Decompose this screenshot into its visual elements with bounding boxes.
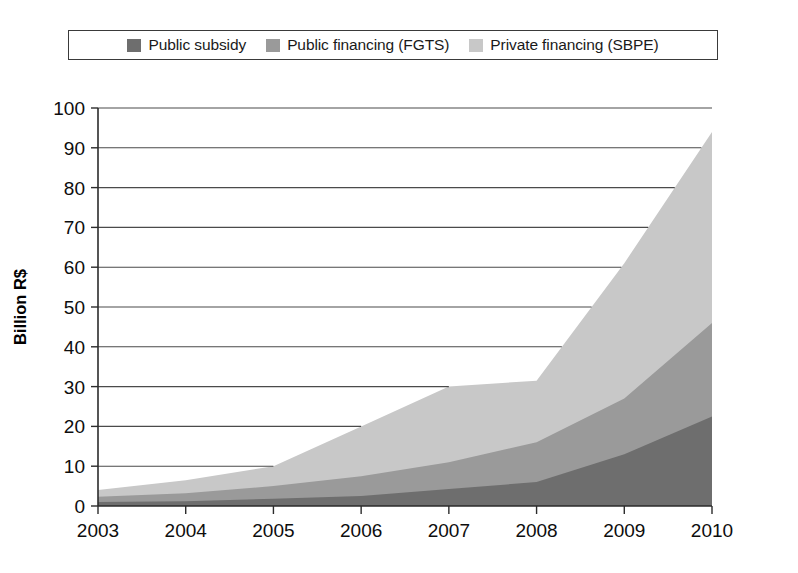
chart-svg: 0102030405060708090100 20032004200520062…	[0, 70, 798, 550]
legend-item-public-subsidy[interactable]: Public subsidy	[127, 37, 246, 53]
chart-figure: Public subsidy Public financing (FGTS) P…	[0, 0, 798, 573]
x-tick-label-2005: 2005	[252, 520, 294, 541]
y-tick-label-100: 100	[53, 98, 85, 119]
x-tick-label-2010: 2010	[691, 520, 733, 541]
y-tick-label-30: 30	[64, 377, 85, 398]
legend-label-public-subsidy: Public subsidy	[148, 37, 246, 53]
x-tick-label-2009: 2009	[603, 520, 645, 541]
y-tick-label-60: 60	[64, 257, 85, 278]
legend-label-public-financing: Public financing (FGTS)	[287, 37, 449, 53]
y-tick-label-40: 40	[64, 337, 85, 358]
y-tick-label-10: 10	[64, 456, 85, 477]
legend-item-public-financing[interactable]: Public financing (FGTS)	[266, 37, 449, 53]
x-tick-label-2007: 2007	[428, 520, 470, 541]
legend-swatch-public-subsidy	[127, 39, 141, 52]
legend-item-private-financing[interactable]: Private financing (SBPE)	[469, 37, 658, 53]
x-tick-label-2008: 2008	[515, 520, 557, 541]
y-axis-title: Billion R$	[11, 269, 29, 345]
x-tick-label-2006: 2006	[340, 520, 382, 541]
chart-plot-area: 0102030405060708090100 20032004200520062…	[0, 70, 798, 550]
x-tick-label-2003: 2003	[77, 520, 119, 541]
y-tick-label-20: 20	[64, 416, 85, 437]
y-axis-ticks: 0102030405060708090100	[53, 98, 98, 517]
legend-swatch-public-financing	[266, 39, 280, 52]
y-axis-title-text: Billion R$	[11, 269, 29, 345]
y-tick-label-0: 0	[74, 496, 85, 517]
y-tick-label-50: 50	[64, 297, 85, 318]
legend-swatch-private-financing	[469, 39, 483, 52]
y-tick-label-90: 90	[64, 138, 85, 159]
legend-label-private-financing: Private financing (SBPE)	[490, 37, 658, 53]
x-axis-ticks: 20032004200520062007200820092010	[77, 506, 733, 541]
chart-legend: Public subsidy Public financing (FGTS) P…	[68, 30, 718, 60]
y-tick-label-70: 70	[64, 217, 85, 238]
x-tick-label-2004: 2004	[165, 520, 208, 541]
y-tick-label-80: 80	[64, 178, 85, 199]
